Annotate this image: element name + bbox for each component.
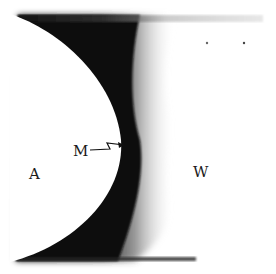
label-region-a: A (29, 167, 40, 182)
micrograph-figure: A M W (0, 0, 276, 274)
label-region-w: W (193, 165, 208, 180)
label-interface-m: M (73, 144, 88, 159)
speck (206, 42, 208, 44)
speck (243, 42, 245, 44)
micrograph-image (0, 0, 276, 274)
